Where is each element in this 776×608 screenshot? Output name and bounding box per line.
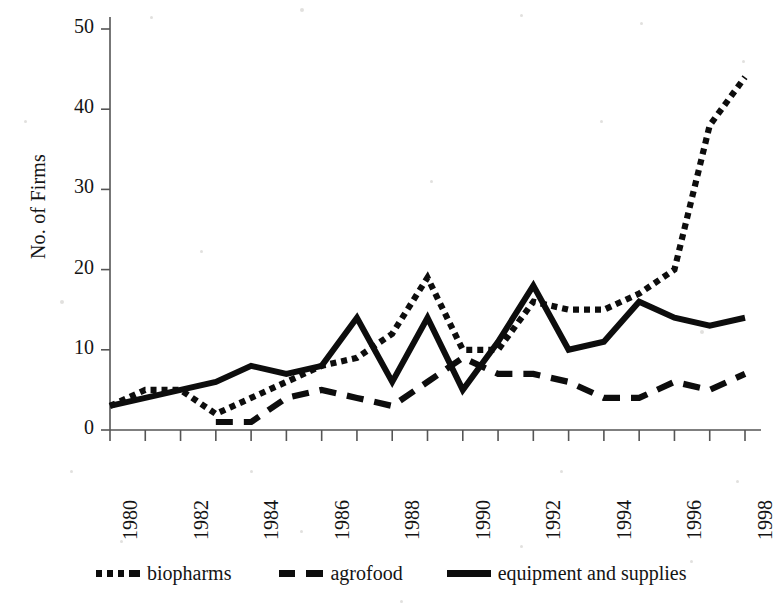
paper-speck: [300, 8, 304, 12]
chart-figure: No. of Firms 01020304050 198019821984198…: [0, 0, 776, 608]
legend-label-agrofood: agrofood: [330, 562, 402, 585]
legend-item-agrofood: agrofood: [279, 562, 402, 585]
series-line-biopharms: [110, 77, 745, 414]
paper-speck: [600, 120, 603, 123]
paper-speck: [150, 16, 153, 19]
paper-speck: [520, 14, 523, 17]
paper-speck: [70, 470, 73, 473]
paper-speck: [520, 545, 523, 548]
paper-speck: [400, 600, 403, 603]
paper-speck: [430, 180, 433, 183]
legend-swatch-dashed-icon: [279, 570, 323, 577]
series-line-equipment-and-supplies: [110, 286, 745, 406]
paper-speck: [300, 530, 303, 533]
legend-label-equipment: equipment and supplies: [498, 562, 687, 585]
paper-speck: [700, 330, 704, 334]
legend-label-biopharms: biopharms: [147, 562, 231, 585]
paper-speck: [60, 300, 64, 304]
paper-speck: [690, 560, 693, 563]
data-series: [110, 77, 745, 422]
legend-swatch-solid-icon: [447, 570, 491, 577]
paper-speck: [742, 60, 745, 63]
paper-speck: [640, 22, 643, 25]
paper-speck: [200, 250, 203, 253]
legend-swatch-dotted-icon: [96, 570, 140, 577]
paper-speck: [736, 480, 739, 483]
paper-speck: [24, 120, 27, 123]
chart-legend: biopharms agrofood equipment and supplie…: [96, 556, 776, 590]
legend-item-equipment: equipment and supplies: [447, 562, 687, 585]
plot-area: [0, 0, 776, 608]
paper-speck: [120, 540, 123, 543]
paper-speck: [250, 470, 253, 473]
paper-speck: [560, 470, 563, 473]
legend-item-biopharms: biopharms: [96, 562, 231, 585]
